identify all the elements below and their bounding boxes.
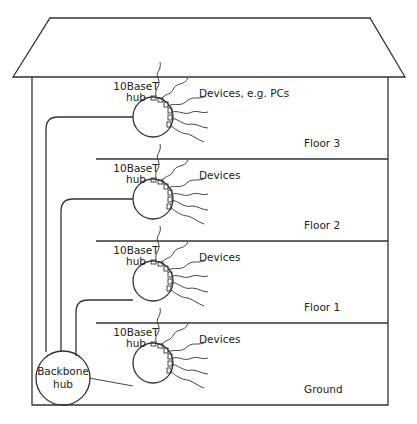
hub-label-line2: hub (126, 337, 146, 349)
floor-3-group: 10BaseT hub Devices, e.g. PCs Floor 3 (113, 62, 340, 149)
devices-label: Devices (199, 333, 240, 345)
backbone-label-line2: hub (53, 378, 73, 390)
device-cables-ground (156, 308, 208, 388)
floor-label: Ground (304, 383, 343, 395)
roof (13, 18, 405, 77)
hub-label-line2: hub (126, 255, 146, 267)
floor-label: Floor 3 (304, 137, 340, 149)
floor-label: Floor 1 (304, 301, 340, 313)
devices-label: Devices (199, 169, 240, 181)
floor-2-group: 10BaseT hub Devices Floor 2 (113, 144, 340, 231)
device-cables-floor-1 (156, 226, 208, 306)
backbone-hub: Backbone hub (36, 351, 90, 405)
device-cables-floor-3 (156, 62, 208, 142)
network-diagram: Backbone hub 10BaseT hub Devices, e.g. P… (0, 0, 417, 424)
ground-floor-group: 10BaseT hub Devices Ground (113, 308, 342, 395)
floor-label: Floor 2 (304, 219, 340, 231)
cable-floor-3 (46, 117, 133, 352)
hub-label-line2: hub (126, 91, 146, 103)
backbone-label-line1: Backbone (37, 365, 89, 377)
device-cables-floor-2 (156, 144, 208, 224)
devices-label: Devices (199, 251, 240, 263)
cable-ground (89, 378, 133, 386)
floor-1-group: 10BaseT hub Devices Floor 1 (113, 226, 340, 313)
devices-label: Devices, e.g. PCs (199, 87, 289, 99)
hub-label-line2: hub (126, 173, 146, 185)
